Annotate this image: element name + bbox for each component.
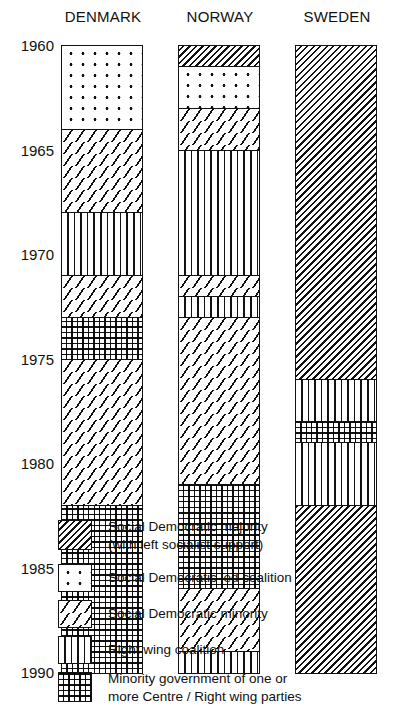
norway-segment-1973-1981 — [178, 317, 260, 486]
legend-swatch-dot-icon — [58, 564, 92, 592]
y-tick-1985: 1985 — [2, 559, 54, 576]
y-tick-1975: 1975 — [2, 350, 54, 367]
y-tick-1965: 1965 — [2, 141, 54, 158]
norway-segment-1965-1971 — [178, 150, 260, 277]
norway-segment-1972-1973 — [178, 296, 260, 319]
y-tick-1960: 1960 — [2, 37, 54, 54]
denmark-segment-1971-1973 — [61, 275, 143, 318]
legend-label-rwc: Right wing coalition — [108, 641, 224, 659]
legend-label-maj: Social Democratic majority(with left soc… — [108, 518, 268, 554]
sweden-segment-1978-1979 — [295, 421, 377, 444]
legend-swatch-min-icon — [58, 600, 92, 628]
bar-sweden — [295, 45, 377, 672]
legend-swatch-rwc-icon — [58, 636, 92, 664]
y-tick-1990: 1990 — [2, 664, 54, 681]
legend-swatch-grid-icon — [58, 672, 92, 702]
norway-segment-1971-1972 — [178, 275, 260, 298]
sweden-segment-1976-1978 — [295, 379, 377, 422]
column-title-norway: NORWAY — [175, 8, 265, 25]
norway-segment-1961-1963 — [178, 66, 260, 109]
legend-label-min: Social Democratic minority — [108, 605, 268, 623]
y-tick-1980: 1980 — [2, 455, 54, 472]
sweden-segment-1960-1976 — [295, 45, 377, 381]
norway-segment-1963-1965 — [178, 108, 260, 151]
denmark-segment-1973-1975 — [61, 317, 143, 360]
denmark-segment-1975-1982 — [61, 359, 143, 507]
legend-label-grid: Minority government of one ormore Centre… — [108, 670, 302, 706]
sweden-segment-1979-1982 — [295, 442, 377, 506]
sweden-segment-1982-1990 — [295, 505, 377, 674]
legend-swatch-maj-icon — [58, 520, 92, 550]
denmark-segment-1968-1971 — [61, 212, 143, 276]
y-tick-1970: 1970 — [2, 246, 54, 263]
denmark-segment-1964-1968 — [61, 129, 143, 214]
denmark-segment-1960-1964 — [61, 45, 143, 130]
legend-label-dot: Social Democratic led coalition — [108, 569, 292, 587]
column-title-denmark: DENMARK — [58, 8, 148, 25]
column-title-sweden: SWEDEN — [292, 8, 382, 25]
norway-segment-1960-1961 — [178, 45, 260, 68]
